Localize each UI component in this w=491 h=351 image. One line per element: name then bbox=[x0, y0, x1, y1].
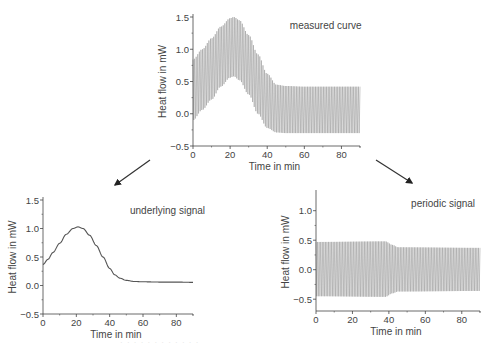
plot-data bbox=[43, 227, 193, 283]
chart-title: underlying signal bbox=[130, 205, 205, 216]
y-tick-label: 1.5 bbox=[26, 195, 39, 206]
x-tick-label: 60 bbox=[299, 149, 310, 160]
x-tick-label: 60 bbox=[420, 314, 431, 325]
x-tick-label: 0 bbox=[190, 149, 195, 160]
y-tick-label: 0.5 bbox=[299, 235, 312, 246]
chart-periodic-signal: −0.50.00.51.0020406080Time in minHeat fl… bbox=[280, 190, 480, 337]
figure: −0.50.00.51.01.5020406080Time in minHeat… bbox=[0, 0, 491, 351]
y-tick-label: 1.0 bbox=[176, 44, 189, 55]
y-axis-label: Heat flow in mW bbox=[157, 45, 168, 118]
x-tick-label: 0 bbox=[313, 314, 318, 325]
y-tick-label: −0.5 bbox=[20, 309, 39, 320]
x-axis-label: Time in min bbox=[249, 161, 300, 172]
plot-data bbox=[316, 241, 480, 296]
y-axis-label: Heat flow in mW bbox=[280, 215, 291, 288]
x-tick-label: 0 bbox=[40, 317, 45, 328]
y-tick-label: 0.0 bbox=[299, 264, 312, 275]
arrow-to-underlying-icon bbox=[115, 160, 150, 185]
figure-canvas: −0.50.00.51.01.5020406080Time in minHeat… bbox=[0, 0, 491, 351]
arrow-to-periodic-icon bbox=[376, 160, 412, 183]
x-axis-label: Time in min bbox=[370, 326, 421, 337]
x-tick-label: 20 bbox=[71, 317, 82, 328]
oscillation-trace bbox=[193, 17, 360, 133]
y-tick-label: 1.0 bbox=[26, 223, 39, 234]
x-tick-label: 20 bbox=[225, 149, 236, 160]
signal-line bbox=[43, 227, 193, 283]
y-tick-label: −0.5 bbox=[293, 294, 312, 305]
x-tick-label: 60 bbox=[138, 317, 149, 328]
x-tick-label: 80 bbox=[336, 149, 347, 160]
y-tick-label: 0.5 bbox=[26, 252, 39, 263]
y-tick-label: 0.0 bbox=[26, 280, 39, 291]
x-tick-label: 40 bbox=[262, 149, 273, 160]
x-tick-label: 80 bbox=[171, 317, 182, 328]
x-tick-label: 40 bbox=[384, 314, 395, 325]
plot-data bbox=[193, 17, 360, 133]
y-axis-label: Heat flow in mW bbox=[7, 220, 18, 293]
y-tick-label: 1.5 bbox=[176, 12, 189, 23]
y-tick-label: 0.0 bbox=[176, 108, 189, 119]
x-tick-label: 40 bbox=[104, 317, 115, 328]
chart-measured-curve: −0.50.00.51.01.5020406080Time in minHeat… bbox=[157, 12, 362, 173]
oscillation-trace bbox=[316, 241, 480, 296]
chart-title: measured curve bbox=[290, 20, 362, 31]
y-tick-label: 1.0 bbox=[299, 205, 312, 216]
x-tick-label: 20 bbox=[347, 314, 358, 325]
y-tick-label: 0.5 bbox=[176, 76, 189, 87]
chart-underlying-signal: −0.50.00.51.01.5020406080Time in minHeat… bbox=[7, 195, 205, 341]
chart-title: periodic signal bbox=[411, 198, 475, 209]
x-tick-label: 80 bbox=[456, 314, 467, 325]
y-tick-label: −0.5 bbox=[170, 141, 189, 152]
faint-caption: · · · · · · · · · · · · bbox=[120, 338, 199, 347]
